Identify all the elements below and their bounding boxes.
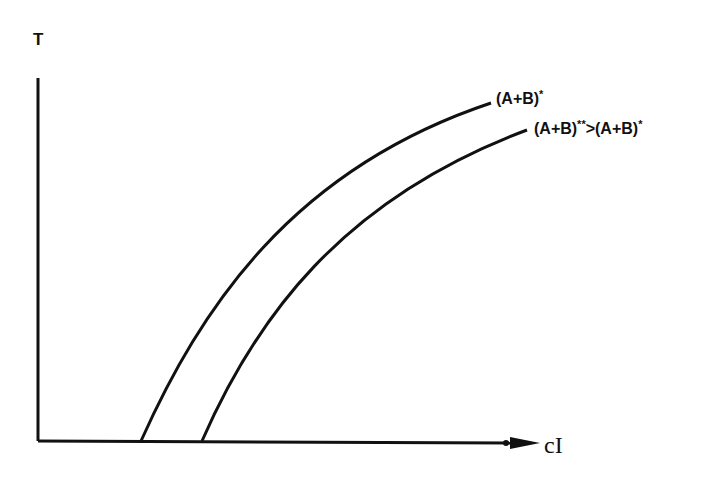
x-axis-arrowhead xyxy=(510,437,540,449)
curve-1-label-main: (A+B) xyxy=(496,90,539,107)
curve-2-label-rest: >(A+B) xyxy=(586,120,638,137)
curve-2-label-rest-sup: * xyxy=(638,118,642,130)
curve-1-label: (A+B)* xyxy=(496,88,543,108)
curve-a-plus-b-star xyxy=(141,103,491,441)
curve-2-label-sup: ** xyxy=(577,118,586,130)
curve-a-plus-b-double-star xyxy=(202,130,527,441)
x-axis-label: cI xyxy=(544,432,563,459)
curve-2-label: (A+B)**>(A+B)* xyxy=(534,118,642,138)
x-axis xyxy=(38,441,520,443)
curve-1-label-sup: * xyxy=(539,88,543,100)
curve-2-label-main: (A+B) xyxy=(534,120,577,137)
x-axis-dot xyxy=(503,440,509,446)
y-axis-label: T xyxy=(33,30,43,50)
diagram-canvas xyxy=(0,0,714,482)
